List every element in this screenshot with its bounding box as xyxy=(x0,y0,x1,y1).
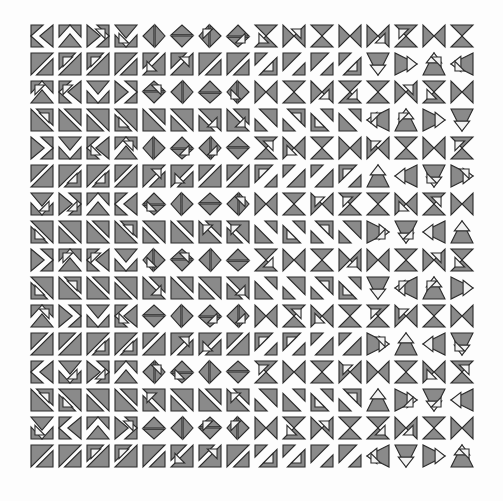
glyph-cell xyxy=(227,333,249,355)
glyph-cell xyxy=(87,109,109,131)
glyph-cell xyxy=(199,445,221,467)
glyph-cell xyxy=(59,445,81,467)
glyph-cell xyxy=(143,53,165,75)
glyph-cell xyxy=(227,165,249,187)
glyph-cell xyxy=(31,109,53,131)
glyph-cell xyxy=(31,165,53,187)
glyph-cell xyxy=(87,445,109,467)
glyph-cell xyxy=(171,333,193,355)
glyph-cell xyxy=(59,165,81,187)
glyph-cell xyxy=(199,53,221,75)
glyph-cell xyxy=(171,277,193,299)
glyph-cell xyxy=(31,221,53,243)
glyph-cell xyxy=(59,109,81,131)
glyph-cell xyxy=(199,277,221,299)
glyph-cell xyxy=(115,109,137,131)
glyph-cell xyxy=(87,221,109,243)
glyph-cell xyxy=(227,53,249,75)
glyph-cell xyxy=(59,277,81,299)
glyph-cell xyxy=(171,53,193,75)
glyph-cell xyxy=(59,53,81,75)
glyph-cell xyxy=(171,165,193,187)
glyph-cell xyxy=(143,221,165,243)
glyph-cell xyxy=(227,389,249,411)
glyph-cell xyxy=(31,53,53,75)
glyph-cell xyxy=(143,109,165,131)
glyph-cell xyxy=(87,389,109,411)
glyph-cell xyxy=(227,221,249,243)
glyph-cell xyxy=(87,53,109,75)
glyph-cell xyxy=(143,333,165,355)
glyph-cell xyxy=(87,333,109,355)
glyph-cell xyxy=(115,221,137,243)
glyph-cell xyxy=(31,277,53,299)
glyph-cell xyxy=(31,389,53,411)
glyph-cell xyxy=(227,445,249,467)
glyph-cell xyxy=(171,389,193,411)
glyph-cell xyxy=(115,53,137,75)
glyph-grid-svg xyxy=(0,0,503,501)
glyph-cell xyxy=(115,333,137,355)
glyph-cell xyxy=(59,333,81,355)
glyph-cell xyxy=(115,277,137,299)
glyph-cell xyxy=(143,277,165,299)
glyph-cell xyxy=(31,333,53,355)
glyph-cell xyxy=(115,165,137,187)
glyph-cell xyxy=(171,221,193,243)
glyph-cell xyxy=(143,165,165,187)
glyph-cell xyxy=(199,333,221,355)
glyph-cell xyxy=(227,277,249,299)
glyph-cell xyxy=(171,445,193,467)
glyph-cell xyxy=(87,277,109,299)
glyph-cell xyxy=(199,221,221,243)
glyph-grid-canvas xyxy=(0,0,503,501)
glyph-cell xyxy=(143,445,165,467)
glyph-cell xyxy=(143,389,165,411)
glyph-cell xyxy=(171,109,193,131)
glyph-cell xyxy=(59,221,81,243)
glyph-cell xyxy=(227,109,249,131)
glyph-cell xyxy=(31,445,53,467)
glyph-cell xyxy=(59,389,81,411)
glyph-cell xyxy=(199,109,221,131)
glyph-cell xyxy=(115,445,137,467)
glyph-cell xyxy=(87,165,109,187)
glyph-cell xyxy=(115,389,137,411)
glyph-cell xyxy=(199,389,221,411)
glyph-cell xyxy=(199,165,221,187)
